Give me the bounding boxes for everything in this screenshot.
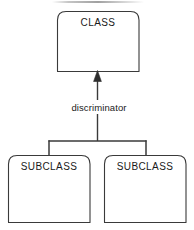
generalization-arrowhead-icon: [94, 71, 102, 82]
diagram-canvas: [0, 0, 194, 230]
discriminator-edge-label: discriminator: [34, 102, 164, 113]
subclass-left-box-label: SUBCLASS: [8, 161, 90, 172]
subclass-right-box-label: SUBCLASS: [104, 161, 186, 172]
class-box-label: CLASS: [57, 17, 139, 28]
uml-generalization-diagram: CLASS discriminator SUBCLASS SUBCLASS: [0, 0, 194, 230]
